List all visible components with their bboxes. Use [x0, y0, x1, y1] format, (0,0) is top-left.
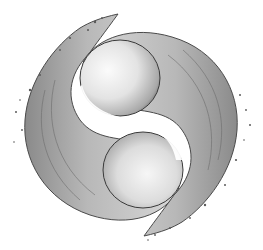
yin-yang-water-splash — [0, 0, 263, 250]
image-canvas — [0, 0, 263, 250]
